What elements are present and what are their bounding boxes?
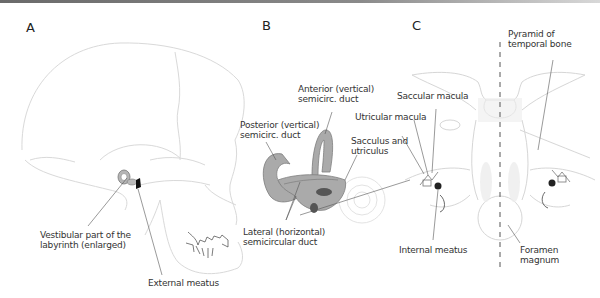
leader-lines-c [402, 60, 553, 243]
labyrinth-right-c [542, 170, 570, 208]
panel-c-letter: C [412, 18, 421, 33]
teeth-illustration [186, 232, 228, 258]
labyrinth-small [118, 170, 141, 189]
label-vestibular-part: Vestibular part of the labyrinth (enlarg… [40, 230, 131, 250]
label-saccular-macula: Saccular macula [397, 91, 468, 101]
utricular-macula [316, 188, 332, 196]
label-anterior-duct: Anterior (vertical) semicirc. duct [298, 84, 374, 104]
label-internal-meatus: Internal meatus [399, 245, 467, 255]
label-foramen-magnum: Foramen magnum [520, 245, 559, 265]
label-lateral-duct: Lateral (horizontal) semicircular duct [243, 227, 325, 247]
label-posterior-duct: Posterior (vertical) semicirc. duct [240, 120, 319, 140]
panel-a-letter: A [26, 20, 35, 35]
label-utricular-macula: Utricular macula [355, 112, 426, 122]
leader-lines-a [88, 178, 162, 275]
semicircular-ducts [263, 130, 345, 213]
label-external-meatus: External meatus [148, 278, 219, 288]
label-sacculus-utriculus: Sacculus and utriculus [351, 136, 408, 156]
label-pyramid-temporal-bone: Pyramid of temporal bone [508, 29, 572, 49]
panel-b-letter: B [262, 18, 271, 33]
